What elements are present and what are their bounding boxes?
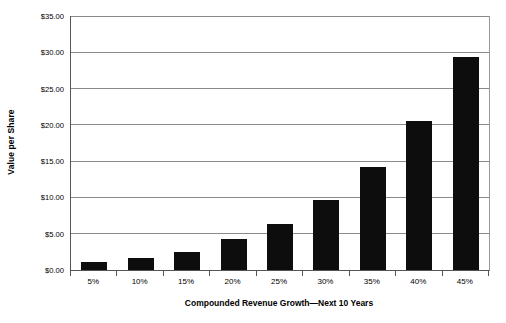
bar[interactable]: [360, 167, 386, 270]
x-axis-tick: [488, 271, 489, 276]
bar[interactable]: [174, 252, 200, 271]
bar-slot: [71, 16, 117, 270]
bar[interactable]: [128, 258, 154, 270]
y-axis-tick-label: $35.00: [41, 12, 64, 21]
bar[interactable]: [406, 121, 432, 270]
bar[interactable]: [313, 200, 339, 270]
bar-chart: Value per Share $0.00$5.00$10.00$15.00$2…: [0, 0, 506, 323]
x-axis-tick: [442, 271, 443, 276]
bar-slot: [117, 16, 163, 270]
y-axis-tick-label: $30.00: [41, 48, 64, 57]
bar-slot: [303, 16, 349, 270]
bar-slot: [210, 16, 256, 270]
x-axis-tick: [256, 271, 257, 276]
y-axis-tick-label: $5.00: [45, 229, 64, 238]
y-axis-tick-label: $20.00: [41, 120, 64, 129]
x-axis-tick-label: 30%: [317, 277, 333, 286]
x-axis-tick-label: 20%: [225, 277, 241, 286]
x-axis-title: Compounded Revenue Growth—Next 10 Years: [70, 298, 488, 308]
bar-slot: [164, 16, 210, 270]
bar[interactable]: [453, 57, 479, 270]
y-axis-title-label: Value per Share: [6, 109, 16, 174]
bar-slot: [257, 16, 303, 270]
bar-slot: [443, 16, 489, 270]
y-axis-title: Value per Share: [0, 0, 22, 283]
bars-series: [71, 16, 489, 270]
x-axis-tick: [349, 271, 350, 276]
bar[interactable]: [267, 224, 293, 270]
bar-slot: [396, 16, 442, 270]
y-axis-tick-label: $15.00: [41, 157, 64, 166]
x-axis-tick: [116, 271, 117, 276]
x-axis-tick-labels: 5%10%15%20%25%30%35%40%45%: [70, 277, 488, 293]
x-axis-tick-label: 10%: [132, 277, 148, 286]
x-axis-tick: [163, 271, 164, 276]
x-axis-tick: [209, 271, 210, 276]
y-axis-tick-label: $25.00: [41, 84, 64, 93]
x-axis-tick: [70, 271, 71, 276]
x-axis-tick-label: 5%: [87, 277, 99, 286]
bar[interactable]: [81, 262, 107, 270]
y-axis-tick-label: $0.00: [45, 266, 64, 275]
x-axis-tick-label: 45%: [457, 277, 473, 286]
bar-slot: [350, 16, 396, 270]
x-axis-tick-label: 35%: [364, 277, 380, 286]
plot-area: [70, 16, 490, 271]
y-axis-tick-label: $10.00: [41, 193, 64, 202]
bar[interactable]: [221, 239, 247, 270]
x-axis-tick: [395, 271, 396, 276]
x-axis-tick-label: 25%: [271, 277, 287, 286]
x-axis-tick-label: 40%: [410, 277, 426, 286]
x-axis-tick: [302, 271, 303, 276]
x-axis-tick-label: 15%: [178, 277, 194, 286]
y-axis-tick-labels: $0.00$5.00$10.00$15.00$20.00$25.00$30.00…: [22, 0, 68, 283]
